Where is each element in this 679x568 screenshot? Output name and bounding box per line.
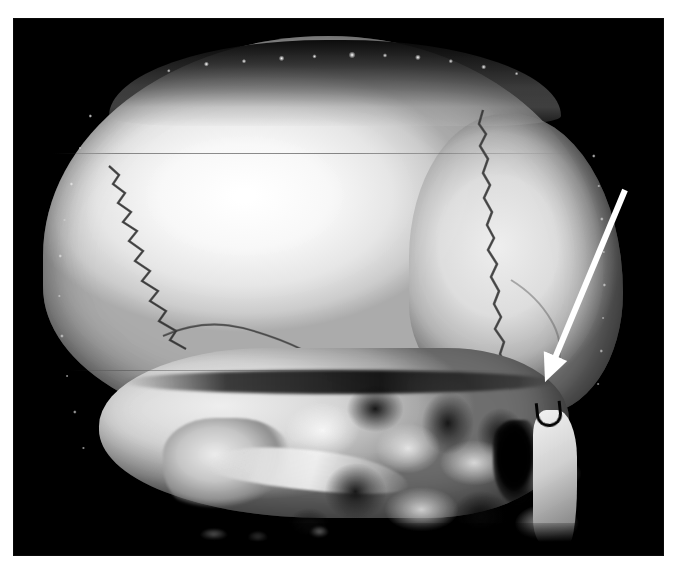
vascular-groove [511, 280, 560, 362]
lambdoid-suture-soft [109, 166, 186, 349]
figure-root [0, 0, 679, 568]
scanline-artifact-upper [53, 153, 573, 154]
inferior-void [13, 523, 664, 556]
image-plate [13, 18, 664, 556]
lambdoid-suture [109, 166, 186, 349]
coronal-suture [479, 110, 506, 365]
skull-volume-rendering [13, 18, 664, 556]
scanline-artifact-mid [65, 370, 545, 371]
